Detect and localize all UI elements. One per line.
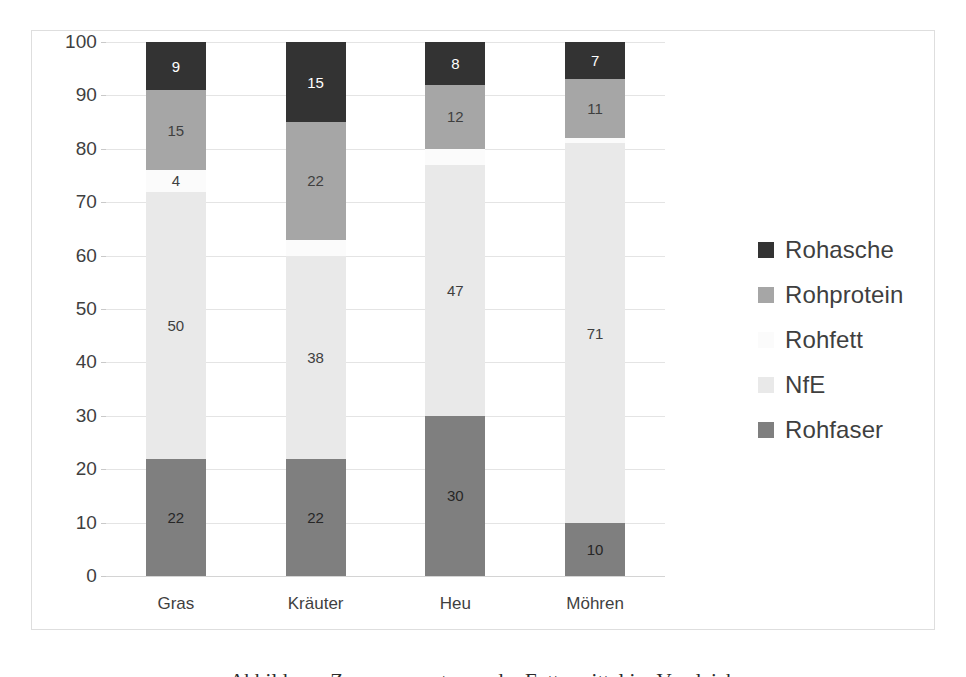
bar-segment-value: 47 bbox=[447, 283, 464, 298]
legend-item-label: Rohfett bbox=[785, 326, 863, 354]
bar-segment-rohfett[interactable]: 3 bbox=[286, 240, 346, 256]
bar-segment-value: 15 bbox=[168, 123, 185, 138]
bar-segment-value: 30 bbox=[447, 488, 464, 503]
y-axis-tick-label: 50 bbox=[76, 298, 97, 320]
bar-segment-value: 4 bbox=[172, 173, 180, 188]
page-bottom-cutoff-text: Abbildung: Zusammensetzung der Futtermit… bbox=[0, 668, 966, 677]
bar-segment-value: 71 bbox=[587, 326, 604, 341]
y-axis-tick-mark bbox=[101, 469, 106, 470]
legend-item-rohprotein[interactable]: Rohprotein bbox=[758, 272, 903, 317]
bar-segment-rohfaser[interactable]: 30 bbox=[425, 416, 485, 576]
bar-segment-value: 8 bbox=[451, 56, 459, 71]
legend-item-label: NfE bbox=[785, 371, 825, 399]
plot-area: 0102030405060708090100 22504159Gras22383… bbox=[106, 42, 665, 576]
bar-segment-value: 10 bbox=[587, 542, 604, 557]
legend-item-label: Rohfaser bbox=[785, 416, 883, 444]
y-axis-tick-label: 0 bbox=[86, 565, 97, 587]
y-axis-tick-label: 90 bbox=[76, 84, 97, 106]
y-axis-tick-mark bbox=[101, 256, 106, 257]
legend-item-rohfett[interactable]: Rohfett bbox=[758, 317, 903, 362]
bar-segment-rohfett[interactable]: 3 bbox=[425, 149, 485, 165]
chart-legend: RohascheRohproteinRohfettNfERohfaser bbox=[758, 227, 903, 452]
legend-swatch-icon bbox=[758, 287, 774, 303]
bar-segment-value: 15 bbox=[307, 75, 324, 90]
y-axis-tick-mark bbox=[101, 523, 106, 524]
gridline bbox=[106, 576, 665, 577]
legend-swatch-icon bbox=[758, 422, 774, 438]
legend-item-rohfaser[interactable]: Rohfaser bbox=[758, 407, 903, 452]
bar-segment-value: 7 bbox=[591, 53, 599, 68]
legend-item-label: Rohasche bbox=[785, 236, 894, 264]
bar-segment-rohfaser[interactable]: 22 bbox=[146, 459, 206, 576]
bar-segment-value: 38 bbox=[307, 350, 324, 365]
y-axis-tick-label: 20 bbox=[76, 458, 97, 480]
bar-segment-value: 12 bbox=[447, 109, 464, 124]
chart-figure: 0102030405060708090100 22504159Gras22383… bbox=[31, 30, 935, 630]
bar-segment-rohasche[interactable]: 8 bbox=[425, 42, 485, 85]
y-axis-tick-label: 70 bbox=[76, 191, 97, 213]
bar-heu[interactable]: 30473128Heu bbox=[425, 42, 485, 576]
legend-swatch-icon bbox=[758, 332, 774, 348]
bar-segment-rohprotein[interactable]: 15 bbox=[146, 90, 206, 170]
bar-segment-rohprotein[interactable]: 11 bbox=[565, 79, 625, 138]
bar-segment-rohfaser[interactable]: 22 bbox=[286, 459, 346, 576]
x-axis-category-label: Gras bbox=[146, 594, 206, 614]
y-axis-tick-mark bbox=[101, 202, 106, 203]
y-axis-tick-mark bbox=[101, 416, 106, 417]
y-axis-tick-label: 80 bbox=[76, 138, 97, 160]
legend-item-label: Rohprotein bbox=[785, 281, 903, 309]
bar-segment-value: 50 bbox=[168, 318, 185, 333]
y-axis-tick-mark bbox=[101, 149, 106, 150]
bar-segment-value: 22 bbox=[168, 510, 185, 525]
y-axis-tick-mark bbox=[101, 362, 106, 363]
bar-segment-value: 9 bbox=[172, 59, 180, 74]
y-axis-tick-mark bbox=[101, 309, 106, 310]
legend-swatch-icon bbox=[758, 377, 774, 393]
y-axis-tick-label: 40 bbox=[76, 351, 97, 373]
y-axis-tick-label: 100 bbox=[65, 31, 97, 53]
bar-segment-value: 11 bbox=[587, 101, 603, 116]
y-axis-tick-label: 10 bbox=[76, 512, 97, 534]
bar-segment-rohprotein[interactable]: 12 bbox=[425, 85, 485, 149]
bar-segment-rohfaser[interactable]: 10 bbox=[565, 523, 625, 576]
bar-segment-nfe[interactable]: 38 bbox=[286, 256, 346, 459]
y-axis-tick-mark bbox=[101, 576, 106, 577]
bar-segment-rohasche[interactable]: 15 bbox=[286, 42, 346, 122]
bar-segment-rohfett[interactable]: 1 bbox=[565, 138, 625, 143]
bar-segment-rohfett[interactable]: 4 bbox=[146, 170, 206, 191]
legend-item-rohasche[interactable]: Rohasche bbox=[758, 227, 903, 272]
bar-segment-rohasche[interactable]: 7 bbox=[565, 42, 625, 79]
bar-segment-nfe[interactable]: 47 bbox=[425, 165, 485, 416]
bar-segment-nfe[interactable]: 50 bbox=[146, 192, 206, 459]
x-axis-category-label: Kräuter bbox=[286, 594, 346, 614]
legend-item-nfe[interactable]: NfE bbox=[758, 362, 903, 407]
bar-segment-rohprotein[interactable]: 22 bbox=[286, 122, 346, 239]
y-axis-tick-mark bbox=[101, 95, 106, 96]
x-axis-category-label: Möhren bbox=[565, 594, 625, 614]
bar-möhren[interactable]: 10711117Möhren bbox=[565, 42, 625, 576]
y-axis-tick-label: 30 bbox=[76, 405, 97, 427]
bar-kräuter[interactable]: 223832215Kräuter bbox=[286, 42, 346, 576]
bar-segment-nfe[interactable]: 71 bbox=[565, 143, 625, 522]
x-axis-category-label: Heu bbox=[425, 594, 485, 614]
bar-gras[interactable]: 22504159Gras bbox=[146, 42, 206, 576]
y-axis-tick-label: 60 bbox=[76, 245, 97, 267]
bar-segment-value: 22 bbox=[307, 173, 324, 188]
y-axis-tick-mark bbox=[101, 42, 106, 43]
bar-segment-rohasche[interactable]: 9 bbox=[146, 42, 206, 90]
legend-swatch-icon bbox=[758, 242, 774, 258]
bar-segment-value: 22 bbox=[307, 510, 324, 525]
